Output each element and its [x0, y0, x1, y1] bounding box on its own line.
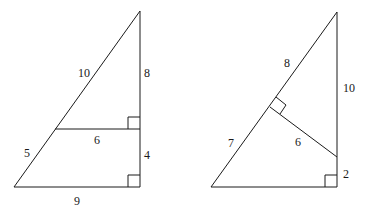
right-angle-marker: [325, 175, 337, 187]
left-outer-triangle: [14, 11, 140, 187]
right-perpendicular-segment: [270, 107, 337, 157]
right-angle-marker: [276, 97, 286, 114]
right-outer-triangle: [211, 12, 337, 187]
label-upper-hypotenuse: 8: [284, 56, 290, 70]
left-figure: 10 8 6 5 4 9: [14, 11, 150, 208]
label-upper-vertical: 8: [144, 66, 150, 80]
right-angle-marker: [128, 117, 140, 129]
label-inner-horizontal: 6: [94, 133, 100, 147]
label-base: 9: [74, 194, 80, 208]
label-lower-vertical: 2: [343, 167, 349, 181]
right-figure: 8 10 7 6 2: [211, 12, 355, 187]
label-lower-hypotenuse: 7: [228, 136, 234, 150]
label-upper-hypotenuse: 10: [78, 66, 90, 80]
label-vertical: 10: [343, 81, 355, 95]
label-lower-vertical: 4: [144, 148, 150, 162]
right-angle-marker: [128, 175, 140, 187]
label-perpendicular: 6: [295, 135, 301, 149]
label-lower-hypotenuse: 5: [24, 146, 30, 160]
geometry-diagram: 10 8 6 5 4 9 8 10 7 6 2: [0, 0, 367, 212]
